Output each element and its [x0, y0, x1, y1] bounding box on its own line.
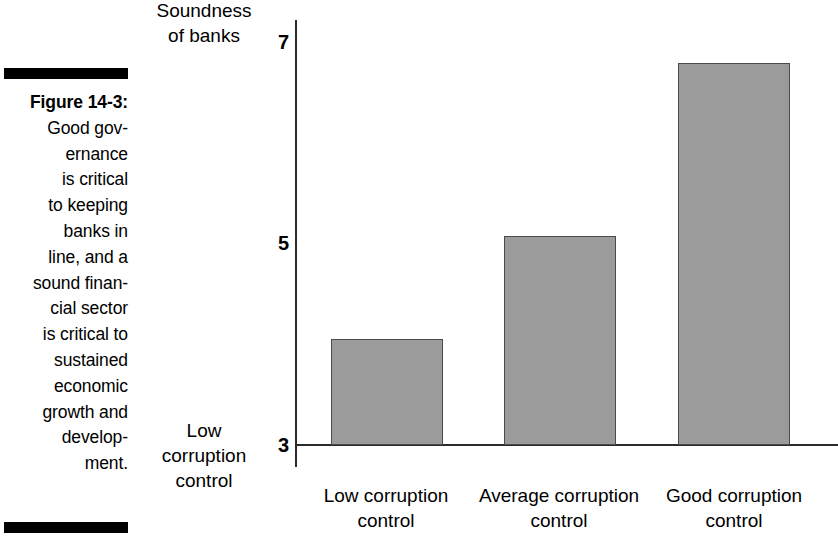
y-axis-line	[295, 20, 297, 467]
y-tick-label-3: 3	[255, 435, 289, 455]
bar-good-corruption-control	[678, 63, 790, 445]
figure-page: Figure 14-3: Good gov- ernance is critic…	[0, 0, 838, 545]
y-tick-label-5: 5	[255, 233, 289, 253]
x-tick-label-line: Good corruption	[628, 483, 838, 508]
bar-average-corruption-control	[504, 236, 616, 445]
y-axis-foot-line: control	[126, 468, 282, 493]
bar-low-corruption-control	[331, 339, 443, 445]
x-tick-label-good-corruption-control: Good corruption control	[628, 483, 838, 533]
bar-chart: Soundness of banks Low corruption contro…	[0, 0, 838, 545]
x-tick-label-line: control	[628, 508, 838, 533]
y-tick-label-7: 7	[255, 32, 289, 52]
y-axis-title-line: Soundness	[126, 0, 282, 23]
y-axis-foot-note: Low corruption control	[126, 418, 282, 493]
